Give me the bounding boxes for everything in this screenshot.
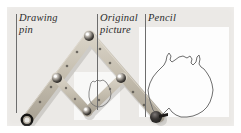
leader-line-drawing-pin — [16, 14, 17, 113]
photo-stage: Drawing pin Original picture Pencil — [7, 7, 234, 126]
label-original-picture: Original picture — [100, 12, 138, 35]
bottom-pivot — [83, 107, 92, 116]
right-cross-pivot — [116, 73, 126, 83]
leader-line-original-picture — [97, 14, 98, 110]
pantograph-photograph: Drawing pin Original picture Pencil — [0, 0, 241, 133]
left-cross-pivot — [52, 73, 62, 83]
leader-line-pencil — [145, 14, 146, 117]
top-pivot — [84, 31, 94, 41]
label-pencil: Pencil — [148, 12, 176, 24]
label-drawing-pin: Drawing pin — [19, 12, 58, 35]
